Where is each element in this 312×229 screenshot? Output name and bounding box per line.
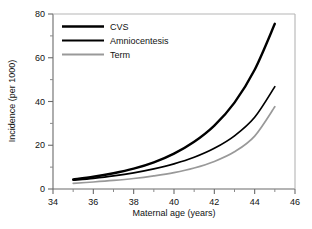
- chart-canvas: 020406080 34363840424446 Maternal age (y…: [0, 0, 312, 229]
- y-tick-label: 60: [35, 53, 45, 63]
- x-tick-label: 40: [169, 197, 179, 207]
- y-tick-label: 20: [35, 140, 45, 150]
- x-tick-label: 42: [209, 197, 219, 207]
- y-tick-label: 40: [35, 97, 45, 107]
- y-axis-title: Incidence (per 1000): [7, 60, 17, 143]
- x-tick-label: 44: [250, 197, 260, 207]
- x-axis-title: Maternal age (years): [132, 208, 215, 218]
- x-tick-label: 34: [48, 197, 58, 207]
- legend-label-amniocentesis: Amniocentesis: [110, 36, 169, 46]
- legend-label-term: Term: [110, 50, 130, 60]
- x-tick-label: 46: [290, 197, 300, 207]
- legend-label-cvs: CVS: [110, 22, 129, 32]
- x-tick-label: 38: [129, 197, 139, 207]
- chart-background: [0, 0, 312, 229]
- y-tick-label: 80: [35, 9, 45, 19]
- chart-figure: 020406080 34363840424446 Maternal age (y…: [0, 0, 312, 229]
- x-tick-label: 36: [88, 197, 98, 207]
- y-tick-label: 0: [40, 184, 45, 194]
